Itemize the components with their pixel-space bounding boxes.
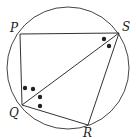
angle-dot-q — [31, 87, 35, 91]
segment-pq — [20, 34, 22, 105]
angle-dot-q — [23, 86, 27, 90]
angle-dot-s — [107, 44, 111, 48]
angle-marks — [23, 37, 111, 108]
segment-qr — [22, 105, 88, 125]
label-s: S — [122, 20, 130, 34]
segment-qs — [22, 33, 119, 105]
segment-rs — [88, 33, 119, 125]
segment-ps — [20, 33, 119, 34]
label-q: Q — [9, 106, 19, 120]
quadrilateral-edges — [20, 33, 119, 125]
cyclic-quadrilateral-diagram: P S Q R — [0, 0, 136, 139]
label-r: R — [82, 126, 92, 139]
label-p: P — [9, 21, 19, 35]
angle-dot-q — [38, 104, 42, 108]
circumcircle — [7, 7, 129, 129]
angle-dot-s — [102, 37, 106, 41]
angle-dot-q — [38, 95, 42, 99]
